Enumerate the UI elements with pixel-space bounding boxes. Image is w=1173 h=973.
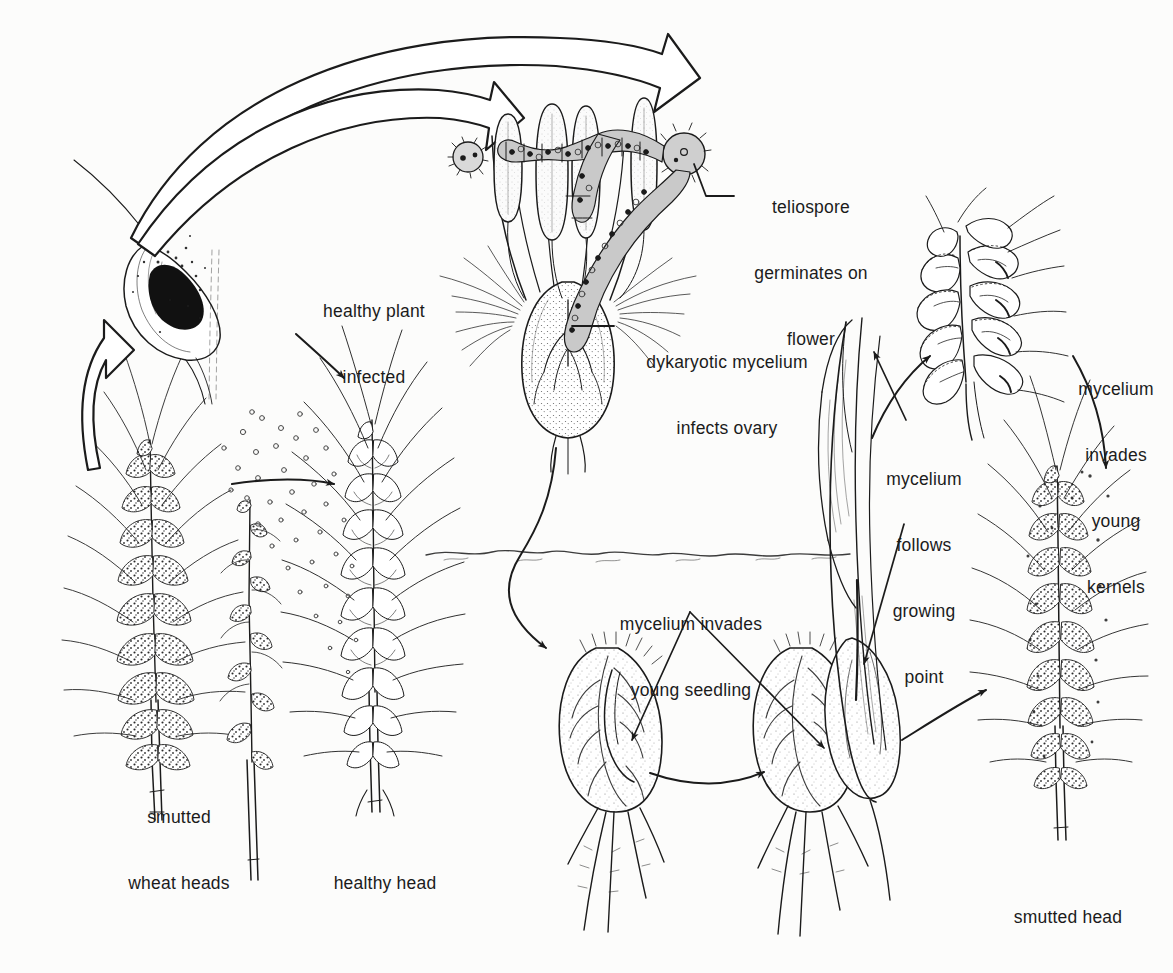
label-line: follows	[868, 534, 980, 556]
label-line: young	[1060, 510, 1172, 532]
label-line: wheat heads	[105, 872, 253, 894]
label-line: mycelium	[1060, 378, 1172, 400]
label-mycelium-invades-young-kernels: mycelium invades young kernels	[1060, 334, 1172, 642]
label-line: smutted head	[992, 906, 1144, 928]
infected-ovary	[522, 282, 614, 474]
label-line: invades	[1060, 444, 1172, 466]
label-line: infected	[294, 366, 454, 388]
label-smutted-wheat-heads: smutted wheat heads	[105, 762, 253, 938]
label-smutted-head: smutted head	[992, 862, 1144, 972]
label-line: mycelium	[868, 468, 980, 490]
label-line: healthy plant	[294, 300, 454, 322]
label-dykaryotic-mycelium: dykaryotic mycelium infects ovary	[617, 307, 837, 483]
label-mycelium-follows-growing-point: mycelium follows growing point	[868, 424, 980, 732]
label-line: infects ovary	[617, 417, 837, 439]
young-kernel-cluster	[917, 188, 1068, 440]
label-line: germinates on	[717, 262, 905, 284]
label-line: mycelium invades	[580, 613, 802, 635]
label-line: smutted	[105, 806, 253, 828]
arrow-spore-drift-lower	[232, 480, 334, 485]
teliospore-free	[448, 137, 488, 178]
label-line: teliospore	[717, 196, 905, 218]
arrow-up-to-floret	[82, 320, 134, 470]
arrow-ovary-to-seedling	[509, 448, 556, 648]
soil-line	[426, 550, 850, 562]
label-line: kernels	[1060, 576, 1172, 598]
disease-cycle-figure: teliospore germinates on flower dykaryot…	[0, 0, 1173, 973]
label-mycelium-invades-young-seedling: mycelium invades young seedling	[580, 569, 802, 745]
arrow-seed-to-seed	[650, 772, 764, 783]
label-line: point	[868, 666, 980, 688]
label-line: young seedling	[580, 679, 802, 701]
label-healthy-head: healthy head	[310, 828, 460, 938]
label-line: healthy head	[310, 872, 460, 894]
label-line: growing	[868, 600, 980, 622]
label-line: dykaryotic mycelium	[617, 351, 837, 373]
label-healthy-plant-infected: healthy plant infected	[294, 256, 454, 432]
